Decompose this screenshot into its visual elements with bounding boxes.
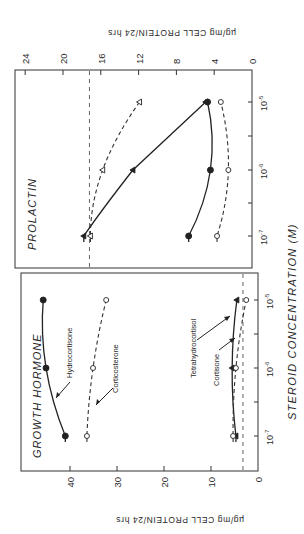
circle-marker-icon [62,433,68,439]
circle-marker-icon [91,366,96,371]
growth-hormone-concentration-axis: 10-710-610-5 [254,293,275,445]
circle-marker-icon [215,234,220,239]
hydrocortisone-arrowhead-icon [56,392,60,398]
prolactin-value-axis: 04812162024 [20,53,258,75]
prolactin-y-axis-title: µg/mg CELL PROTEIN/24 hrs [108,28,236,38]
concentration-tick-label: 10-6 [264,361,275,377]
circle-marker-icon [226,168,231,173]
concentration-tick-label: 10-7 [258,229,269,245]
growth-hormone-y-axis-title: µg/mg CELL PROTEIN/24 hrs [116,515,244,525]
value-tick-label: 30 [112,477,123,488]
concentration-tick-label: 10-5 [258,95,269,111]
corticosterone-arrowhead-icon [96,399,100,405]
prolactin-concentration-axis: 10-710-610-5 [248,95,269,245]
prolactin-panel: 04812162024 10-710-610-5 PROLACTIN µg/mg… [15,28,269,268]
tetrahydrocortisol-annotation: Tetrahydrocortisol [189,318,198,378]
concentration-tick-label: 10-7 [264,429,275,445]
growth-hormone-value-axis: 010203040 [65,466,264,488]
circle-marker-icon [231,434,236,439]
circle-marker-icon [218,100,223,105]
hydrocortisone-annotation: Hydrocortisone [65,328,74,378]
tetrahydrocortisol-arrow-icon [197,316,230,340]
circle-marker-icon [84,434,89,439]
value-tick-label: 40 [65,477,76,488]
concentration-tick-label: 10-5 [264,293,275,309]
value-tick-label: 16 [96,53,107,64]
circle-marker-icon [40,297,46,303]
value-tick-label: 10 [206,477,217,488]
series-line-corticosterone [87,300,106,442]
value-tick-label: 20 [58,53,69,64]
value-tick-label: 4 [209,59,220,64]
circle-marker-icon [233,366,238,371]
prolactin-panel-title: PROLACTIN [26,178,38,250]
growth-hormone-panel-title: GROWTH HORMONE [31,333,43,458]
value-tick-label: 12 [134,53,145,64]
circle-marker-icon [244,298,249,303]
figure-svg: 04812162024 10-710-610-5 PROLACTIN µg/mg… [0,0,304,534]
triangle-marker-icon [137,99,142,105]
circle-marker-icon [186,233,192,239]
concentration-tick-label: 10-6 [258,163,269,179]
value-tick-label: 0 [247,59,258,64]
value-tick-label: 8 [171,59,182,64]
value-tick-label: 0 [253,477,264,482]
cortisone-annotation: Cortisone [212,354,221,386]
corticosterone-annotation: Corticosterone [111,344,120,393]
value-tick-label: 24 [20,53,31,64]
prolactin-series [81,71,231,267]
circle-marker-icon [104,298,109,303]
circle-marker-icon [43,365,49,371]
value-tick-label: 20 [159,477,170,488]
x-axis-title: STEROID CONCENTRATION (M) [286,223,298,420]
growth-hormone-panel: 010203040 10-710-610-5 GROWTH HORMONE µg… [21,273,275,525]
circle-marker-icon [207,167,213,173]
steroid-hormone-figure: 04812162024 10-710-610-5 PROLACTIN µg/mg… [0,0,304,534]
growth-hormone-plot-frame [21,273,258,471]
